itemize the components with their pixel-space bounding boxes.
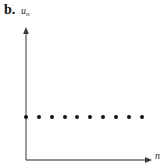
figure-panel-b: b. un n [0, 0, 163, 166]
axes-group [0, 0, 163, 166]
data-point [140, 115, 144, 119]
data-point [114, 115, 118, 119]
data-point [37, 115, 41, 119]
data-point [24, 115, 28, 119]
data-point [63, 115, 67, 119]
data-point [101, 115, 105, 119]
y-axis-arrowhead [23, 27, 29, 34]
data-point [75, 115, 79, 119]
data-point [127, 115, 131, 119]
data-point [50, 115, 54, 119]
data-point [88, 115, 92, 119]
x-axis-arrowhead [145, 157, 152, 163]
